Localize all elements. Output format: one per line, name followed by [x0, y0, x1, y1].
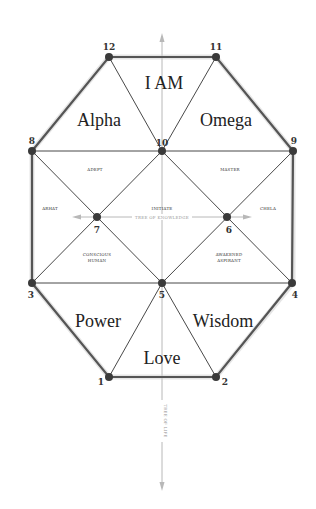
- arrow-down-icon: [160, 482, 165, 491]
- node-label-2: 2: [222, 377, 228, 387]
- node-10: [158, 147, 166, 155]
- region-power: Power: [75, 311, 121, 331]
- node-1: [105, 373, 113, 381]
- label-awakened: AWAKENED: [215, 252, 243, 257]
- region-i-am: I AM: [145, 73, 184, 93]
- node-label-4: 4: [292, 290, 298, 300]
- node-label-9: 9: [291, 136, 297, 146]
- node-8: [28, 147, 36, 155]
- arrow-left-icon: [72, 215, 81, 220]
- label-master: MASTER: [220, 167, 240, 172]
- tree-of-life-label: TREE OF LIFE: [163, 404, 168, 438]
- region-omega: Omega: [200, 110, 252, 130]
- node-label-12: 12: [103, 42, 116, 52]
- tree-of-knowledge-label: TREE OF KNOWLEDGE: [135, 215, 189, 220]
- node-label-11: 11: [210, 42, 223, 52]
- node-3: [28, 279, 36, 287]
- node-label-6: 6: [226, 225, 232, 235]
- node-5: [158, 279, 166, 287]
- node-9: [289, 147, 297, 155]
- node-label-7: 7: [94, 225, 100, 235]
- label-conscious: CONSCIOUS: [83, 252, 111, 257]
- node-6: [223, 213, 231, 221]
- label-arhat: ARHAT: [41, 206, 58, 211]
- node-2: [212, 373, 220, 381]
- arrow-right-icon: [243, 215, 252, 220]
- node-11: [212, 53, 220, 61]
- label-chela: CHELA: [260, 206, 276, 211]
- arrow-up-icon: [160, 33, 165, 42]
- node-label-10: 10: [156, 138, 169, 148]
- node-label-1: 1: [98, 377, 104, 387]
- node-7: [93, 213, 101, 221]
- node-12: [105, 53, 113, 61]
- region-alpha: Alpha: [77, 110, 121, 130]
- label-adept: ADEPT: [86, 167, 103, 172]
- node-label-3: 3: [28, 290, 34, 300]
- node-label-5: 5: [159, 290, 165, 300]
- octagon-diagram: 1 2 3 4 5 6 7 8 9 10 11 12 I AM Alpha Om…: [0, 0, 316, 509]
- label-human: HUMAN: [88, 258, 107, 263]
- region-wisdom: Wisdom: [193, 311, 253, 331]
- label-initiate: INITIATE: [152, 206, 173, 211]
- region-love: Love: [144, 348, 181, 368]
- node-4: [288, 279, 296, 287]
- label-aspirant: ASPIRANT: [216, 258, 241, 263]
- node-label-8: 8: [29, 136, 35, 146]
